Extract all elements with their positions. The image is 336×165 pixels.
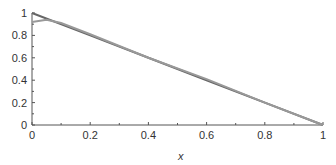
series-line	[32, 20, 323, 125]
x-tick-label: 0	[29, 129, 35, 141]
y-tick-label: 0.6	[12, 52, 27, 64]
x-tick-label: 0.8	[257, 129, 272, 141]
y-tick-label: 1	[21, 7, 27, 19]
line-chart: 00.20.40.60.8100.20.40.60.81 x	[0, 0, 336, 165]
x-tick-label: 0.2	[83, 129, 98, 141]
x-tick-label: 0.4	[141, 129, 156, 141]
y-tick-label: 0.8	[12, 29, 27, 41]
x-tick-label: 0.6	[199, 129, 214, 141]
y-tick-label: 0.4	[12, 74, 27, 86]
y-tick-label: 0	[21, 119, 27, 131]
x-tick-label: 1	[320, 129, 326, 141]
y-tick-label: 0.2	[12, 97, 27, 109]
plot-area: 00.20.40.60.8100.20.40.60.81	[12, 7, 326, 141]
x-axis-label: x	[177, 150, 184, 162]
